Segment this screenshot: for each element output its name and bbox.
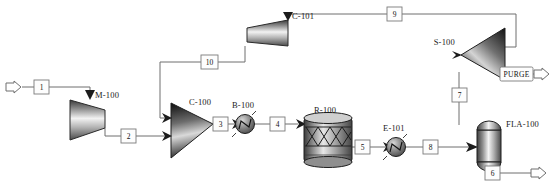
stream-tag-1[interactable]: 1 [34, 80, 49, 94]
equipment-b-100[interactable]: B-100 [232, 100, 256, 137]
m-100-body[interactable] [70, 100, 105, 140]
b-100-label: B-100 [232, 100, 254, 110]
stream-tag-10-label: 10 [206, 58, 214, 67]
pipe-tag1-to-m100 [49, 87, 90, 98]
stream-tag-7[interactable]: 7 [452, 88, 467, 102]
stream-tag-3[interactable]: 3 [213, 117, 228, 131]
equipment-c-101[interactable]: C-101 [247, 11, 314, 46]
stream-tag-4-label: 4 [276, 120, 280, 129]
pipe-tag10-to-c101in [217, 46, 245, 62]
b-100-duty-tail [232, 133, 236, 137]
stream-tag-3-label: 3 [219, 120, 223, 129]
equipment-r-100[interactable]: R-100 [296, 105, 352, 168]
stream-tag-8[interactable]: 8 [423, 140, 438, 154]
stream-tag-4[interactable]: 4 [270, 117, 285, 131]
pfd-canvas: M-100 C-100 B-100 [0, 0, 556, 189]
e-101-label: E-101 [383, 123, 405, 133]
fla-100-shell[interactable] [477, 130, 501, 162]
stream-tag-2[interactable]: 2 [121, 129, 136, 143]
stream-tag-6[interactable]: 6 [485, 166, 500, 180]
purge-outlet-arrow [534, 68, 549, 80]
m-100-inlet-arrow [85, 90, 95, 100]
s-100-body[interactable] [461, 28, 505, 80]
r-100-bottom-head [304, 157, 352, 168]
stream-tag-9-label: 9 [393, 10, 397, 19]
stream-tag-purge-label: PURGE [503, 70, 529, 79]
stream-tag-5-label: 5 [361, 143, 365, 152]
fla-100-top-head [477, 121, 501, 130]
equipment-c-100[interactable]: C-100 [162, 97, 213, 158]
stream-tag-2-label: 2 [127, 132, 131, 141]
c-101-body[interactable] [247, 20, 288, 46]
equipment-e-101[interactable]: E-101 [383, 123, 407, 160]
stream-tag-7-label: 7 [458, 91, 462, 100]
equipment-fla-100[interactable]: FLA-100 [466, 119, 539, 171]
stream-tag-purge[interactable]: PURGE [500, 67, 533, 81]
pipe-m100-to-tag2 [105, 128, 121, 136]
s-100-inlet-arrow [452, 51, 462, 59]
fla-100-label: FLA-100 [506, 119, 539, 129]
process-flow-diagram: M-100 C-100 B-100 [0, 0, 556, 189]
e-101-duty-tail [383, 156, 387, 160]
stream-tag-5[interactable]: 5 [355, 140, 370, 154]
stream-tag-8-label: 8 [429, 143, 433, 152]
r-100-label: R-100 [314, 105, 336, 115]
stream-tag-6-label: 6 [491, 169, 495, 178]
c-100-label: C-100 [189, 97, 211, 107]
c-101-label: C-101 [292, 11, 314, 21]
s-100-label: S-100 [434, 37, 455, 47]
c-100-body[interactable] [171, 103, 213, 158]
b-100-duty-arrow [252, 111, 256, 115]
equipment-s-100[interactable]: S-100 [434, 28, 505, 80]
stream-tag-1-label: 1 [40, 83, 44, 92]
equipment-m-100[interactable]: M-100 [70, 90, 119, 140]
m-100-label: M-100 [95, 90, 119, 100]
e-101-duty-arrow [403, 134, 407, 138]
stream-tag-9[interactable]: 9 [387, 7, 402, 21]
product-outlet-arrow [531, 167, 546, 179]
feed-inlet-arrow [6, 81, 21, 93]
stream-tag-10[interactable]: 10 [201, 55, 218, 69]
